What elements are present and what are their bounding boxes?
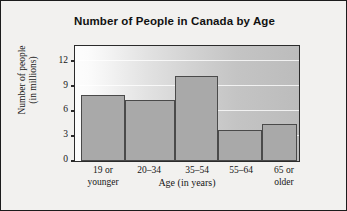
x-tick-label-20-34: 20–34 <box>125 165 173 177</box>
y-tick-label-0: 0 <box>46 154 68 164</box>
y-tick-label-3: 3 <box>46 129 68 139</box>
y-tick-label-12: 12 <box>46 55 68 65</box>
x-axis-title: Age (in years) <box>74 177 300 188</box>
y-axis-title-line-2: (in millions) <box>28 25 39 135</box>
x-tick-label-55-64: 55–64 <box>217 165 265 177</box>
y-tick-label-9: 9 <box>46 80 68 90</box>
bar-35-54 <box>175 76 218 161</box>
y-tick-label-6: 6 <box>46 104 68 114</box>
bar-20-34 <box>125 100 175 161</box>
chart-screenshot: Number of People in Canada by Age Number… <box>0 0 347 211</box>
x-tick-label-line-1: 19 or <box>79 165 127 177</box>
x-tick-label-line-1: 55–64 <box>217 165 265 177</box>
bar-19-or-younger <box>81 95 125 161</box>
y-axis-title: Number of people (in millions) <box>17 25 39 135</box>
bar-65-or-older <box>262 124 297 161</box>
x-tick-label-line-1: 20–34 <box>125 165 173 177</box>
x-tick-label-35-54: 35–54 <box>173 165 221 177</box>
plot-area <box>74 45 300 162</box>
bar-55-64 <box>218 130 262 161</box>
chart-title: Number of People in Canada by Age <box>1 15 347 27</box>
x-tick-label-line-1: 65 or <box>260 165 308 177</box>
y-axis-title-line-1: Number of people <box>17 25 28 135</box>
x-tick-label-line-1: 35–54 <box>173 165 221 177</box>
bars-layer <box>75 46 299 161</box>
